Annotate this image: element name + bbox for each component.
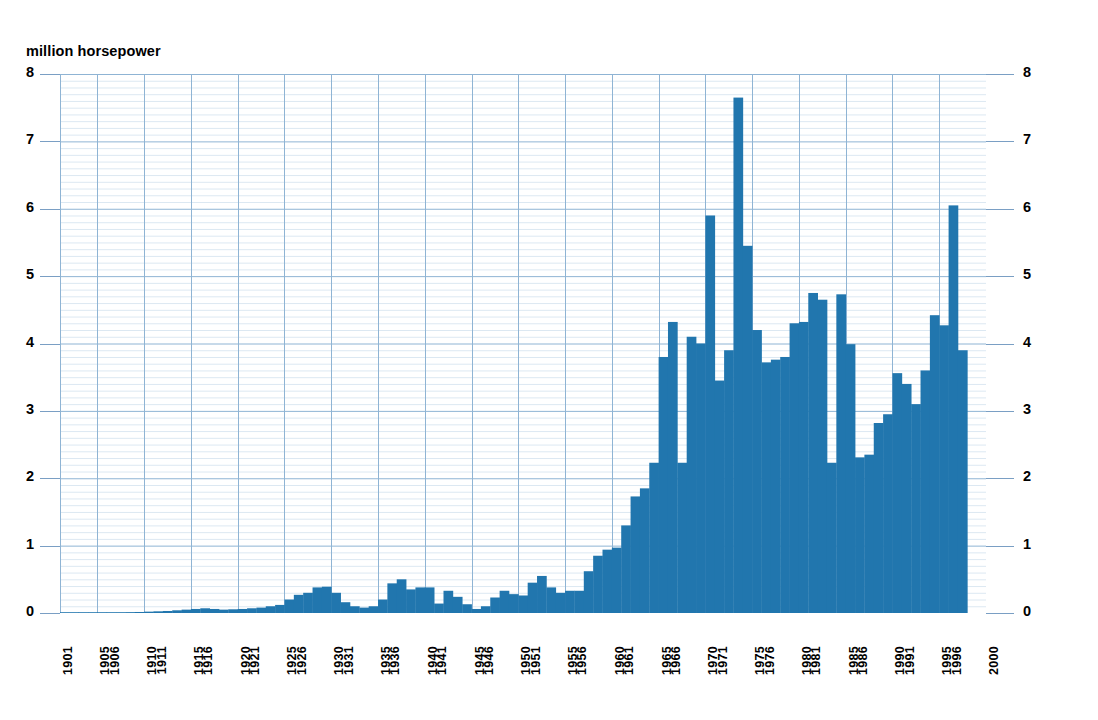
- bar: [687, 337, 697, 613]
- bar: [481, 606, 491, 613]
- bar: [509, 594, 519, 613]
- bar: [743, 246, 753, 613]
- bar: [780, 357, 790, 613]
- y-tick-mark-left: [40, 546, 60, 547]
- bar: [247, 608, 257, 613]
- bar: [425, 587, 435, 613]
- bar: [874, 423, 884, 613]
- bar: [621, 525, 631, 613]
- bar: [593, 556, 603, 613]
- y-tick-label-left: 1: [0, 536, 34, 552]
- bar: [60, 612, 70, 613]
- x-tick-label: 1986: [856, 646, 870, 675]
- x-tick-label: 1936: [388, 646, 402, 675]
- chart-container: million horsepower 012345678 012345678 1…: [0, 0, 1098, 720]
- bar: [528, 583, 538, 613]
- bar: [705, 215, 715, 613]
- bar: [855, 457, 865, 613]
- y-tick-label-left: 3: [0, 401, 34, 417]
- chart-svg: [60, 74, 986, 613]
- y-tick-label-left: 6: [0, 199, 34, 215]
- bar: [565, 591, 575, 613]
- bar: [715, 381, 725, 613]
- y-tick-label-right: 4: [1023, 334, 1057, 350]
- bar: [331, 593, 341, 613]
- bar: [284, 600, 294, 613]
- y-tick-label-left: 8: [0, 64, 34, 80]
- x-tick-label: 1971: [716, 646, 730, 675]
- bar: [350, 606, 360, 613]
- bar: [210, 609, 220, 613]
- bar: [958, 350, 968, 613]
- bar: [696, 344, 706, 614]
- bar: [659, 357, 669, 613]
- y-tick-mark-left: [40, 411, 60, 412]
- y-tick-label-right: 3: [1023, 401, 1057, 417]
- bar: [902, 384, 912, 613]
- y-tick-mark-right: [986, 344, 1014, 345]
- y-tick-label-right: 2: [1023, 468, 1057, 484]
- y-tick-label-left: 2: [0, 468, 34, 484]
- y-tick-label-right: 5: [1023, 266, 1057, 282]
- y-tick-mark-right: [986, 411, 1014, 412]
- bar: [79, 612, 89, 613]
- y-tick-mark-left: [40, 478, 60, 479]
- x-tick-label: 1956: [575, 646, 589, 675]
- bar: [359, 608, 369, 613]
- bar: [397, 579, 407, 613]
- bar: [911, 404, 921, 613]
- bar: [434, 604, 444, 613]
- bar: [406, 589, 416, 613]
- bar: [949, 205, 959, 613]
- bar: [144, 612, 154, 613]
- bar: [415, 587, 425, 613]
- bar: [69, 612, 79, 613]
- bar: [154, 611, 164, 613]
- y-tick-mark-left: [40, 276, 60, 277]
- bar: [584, 571, 594, 613]
- bar: [836, 294, 846, 613]
- y-tick-label-right: 6: [1023, 199, 1057, 215]
- bar: [752, 330, 762, 613]
- bar: [238, 609, 248, 613]
- x-tick-label: 1991: [903, 646, 917, 675]
- bar: [116, 612, 126, 613]
- x-tick-label: 1976: [763, 646, 777, 675]
- bar: [939, 325, 949, 613]
- bar: [649, 463, 659, 613]
- bar: [303, 593, 313, 613]
- bar: [733, 98, 743, 613]
- bar: [518, 595, 528, 613]
- bar: [387, 583, 397, 613]
- plot-area: [60, 74, 986, 613]
- bar: [930, 315, 940, 613]
- bar: [574, 591, 584, 613]
- y-tick-mark-right: [986, 209, 1014, 210]
- bar: [546, 587, 556, 613]
- bar: [631, 496, 641, 613]
- bar: [864, 455, 874, 613]
- bar: [537, 576, 547, 613]
- y-tick-mark-right: [986, 276, 1014, 277]
- y-tick-mark-left: [40, 344, 60, 345]
- x-tick-label: 2000: [987, 646, 1001, 675]
- y-tick-label-left: 7: [0, 131, 34, 147]
- x-tick-label: 1941: [435, 646, 449, 675]
- y-tick-label-right: 0: [1023, 603, 1057, 619]
- y-tick-mark-left: [40, 74, 60, 75]
- bar: [228, 609, 238, 613]
- x-tick-label: 1946: [482, 646, 496, 675]
- y-tick-label-right: 8: [1023, 64, 1057, 80]
- y-axis-title: million horsepower: [26, 43, 161, 59]
- bar-series: [60, 98, 968, 613]
- bar: [182, 610, 192, 613]
- bar: [125, 612, 135, 613]
- bar: [883, 414, 893, 613]
- bar: [771, 360, 781, 613]
- bar: [790, 323, 800, 613]
- x-tick-label: 1966: [669, 646, 683, 675]
- bar: [341, 602, 351, 613]
- bar: [163, 611, 173, 613]
- bar: [472, 609, 482, 613]
- bar: [107, 612, 117, 613]
